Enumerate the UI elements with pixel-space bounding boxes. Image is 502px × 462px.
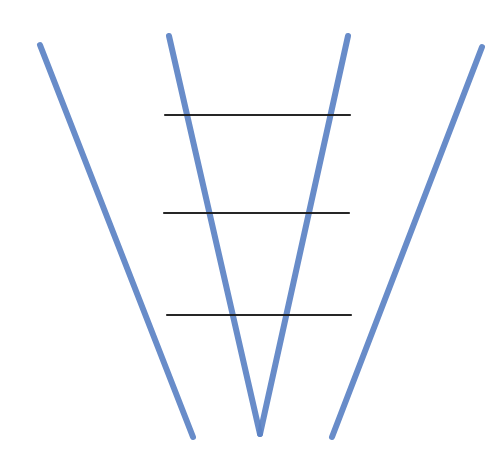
right-diagonal-line — [332, 47, 482, 437]
left-diagonal-line — [40, 45, 193, 437]
v-left-arm-line — [169, 36, 260, 434]
v-right-arm-line — [260, 36, 348, 434]
blue-diagonal-lines — [40, 36, 482, 437]
hand-drawn-line-diagram — [0, 0, 502, 462]
